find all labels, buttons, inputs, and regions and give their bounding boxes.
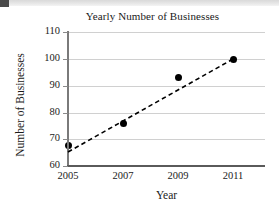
plot-area: [68, 32, 265, 166]
y-tick-label-90: 90: [30, 79, 60, 90]
y-tick-mark-100: [63, 59, 68, 60]
y-tick-mark-70: [63, 139, 68, 140]
data-point-2007[interactable]: [120, 120, 127, 127]
gridline-90: [68, 86, 265, 87]
x-tick-label-2007: 2007: [101, 170, 145, 181]
y-tick-mark-60: [63, 166, 68, 167]
x-tick-label-2011: 2011: [211, 170, 255, 181]
scatter-chart: Yearly Number of Businesses Number of Bu…: [0, 0, 279, 212]
data-point-2009[interactable]: [175, 74, 182, 81]
y-tick-label-60: 60: [30, 159, 60, 170]
chart-title: Yearly Number of Businesses: [40, 10, 265, 22]
x-axis-title: Year: [68, 189, 265, 201]
y-tick-label-110: 110: [30, 25, 60, 36]
screenshot-root: Yearly Number of Businesses Number of Bu…: [0, 0, 279, 212]
y-tick-mark-110: [63, 32, 68, 33]
x-tick-label-2005: 2005: [46, 170, 90, 181]
gridline-110: [68, 32, 265, 33]
y-axis-title: Number of Businesses: [14, 30, 26, 180]
y-tick-label-70: 70: [30, 132, 60, 143]
y-tick-mark-80: [63, 113, 68, 114]
data-point-2011[interactable]: [230, 56, 237, 63]
gridline-70: [68, 139, 265, 140]
y-tick-label-80: 80: [30, 106, 60, 117]
x-tick-label-2009: 2009: [156, 170, 200, 181]
y-tick-label-100: 100: [30, 52, 60, 63]
gridline-80: [68, 113, 265, 114]
y-tick-mark-90: [63, 86, 68, 87]
x-axis-line: [67, 165, 265, 167]
y-axis-line: [67, 31, 69, 167]
